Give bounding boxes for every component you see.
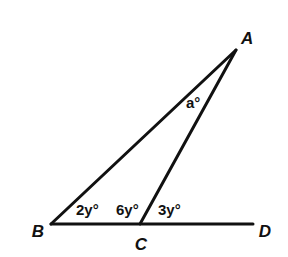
vertex-label-c: C (135, 235, 148, 254)
angle-label-2y: 2y° (76, 201, 99, 218)
vertex-label-d: D (259, 222, 271, 241)
angle-label-a: a° (186, 94, 200, 111)
angle-label-6y: 6y° (116, 201, 139, 218)
vertex-label-a: A (240, 29, 253, 48)
angle-label-3y: 3y° (158, 201, 181, 218)
segment-ac (140, 50, 236, 224)
triangle-diagram: A B C D a° 2y° 6y° 3y° (0, 0, 288, 257)
segment-ab (51, 50, 236, 224)
vertex-label-b: B (32, 222, 44, 241)
